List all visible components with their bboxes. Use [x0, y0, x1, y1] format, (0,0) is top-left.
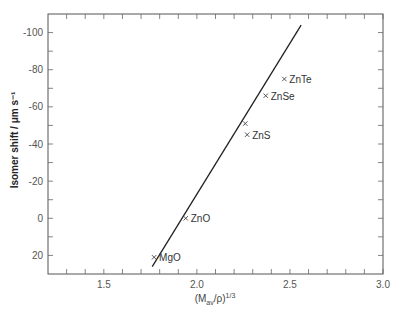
y-tick-label: -100 [23, 27, 43, 38]
y-tick-label: -20 [29, 176, 44, 187]
y-tick-label: -60 [29, 101, 44, 112]
y-tick-label: 20 [32, 250, 44, 261]
x-axis-label: (Mav/ρ)1/3 [195, 292, 236, 306]
point-label: ZnTe [289, 74, 312, 85]
point-label: MgO [159, 252, 181, 263]
y-tick-label: -80 [29, 64, 44, 75]
fit-line [152, 25, 301, 266]
data-point: ZnTe [282, 74, 312, 85]
point-label: ZnO [191, 213, 211, 224]
point-label: ZnS [252, 130, 271, 141]
data-point: ZnO [184, 213, 211, 224]
data-point: MgO [152, 252, 181, 263]
y-axis-label: Isomer shift / μm s⁻¹ [9, 92, 20, 189]
axis-ticks: 1.52.02.53.0-100-80-60-40-20020 [23, 14, 390, 290]
x-tick-label: 1.5 [97, 279, 111, 290]
data-point [243, 121, 247, 125]
data-points: MgOZnOZnSZnSeZnTe [152, 74, 312, 263]
x-tick-label: 2.5 [283, 279, 297, 290]
x-tick-label: 3.0 [376, 279, 390, 290]
data-point: ZnS [245, 130, 271, 141]
y-tick-label: -40 [29, 139, 44, 150]
point-label: ZnSe [271, 91, 295, 102]
regression-line [152, 25, 301, 266]
data-point: ZnSe [264, 91, 296, 102]
x-tick-label: 2.0 [190, 279, 204, 290]
plot-frame [48, 14, 383, 274]
axes-box [48, 14, 383, 274]
scatter-chart: 1.52.02.53.0-100-80-60-40-20020 MgOZnOZn… [0, 0, 400, 316]
y-tick-label: 0 [37, 213, 43, 224]
